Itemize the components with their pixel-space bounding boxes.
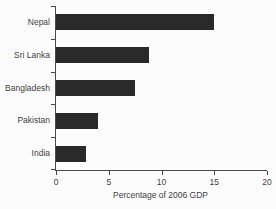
bar-sri-lanka xyxy=(56,47,149,63)
y-axis-tick xyxy=(51,169,55,170)
category-label-sri-lanka: Sri Lanka xyxy=(0,50,50,61)
bar-chart-figure: 05101520 Percentage of 2006 GDP NepalSri… xyxy=(0,0,276,209)
x-axis-tick-label: 20 xyxy=(257,177,276,187)
x-axis-tick xyxy=(162,171,163,175)
x-axis-tick-label: 15 xyxy=(204,177,224,187)
category-label-bangladesh: Bangladesh xyxy=(0,83,50,94)
plot-area: 05101520 xyxy=(55,6,267,171)
x-axis-tick xyxy=(56,171,57,175)
y-axis-tick xyxy=(51,104,55,105)
x-axis-tick xyxy=(109,171,110,175)
category-label-india: India xyxy=(0,148,50,159)
y-axis-tick xyxy=(51,39,55,40)
x-axis-title: Percentage of 2006 GDP xyxy=(55,190,266,200)
bar-nepal xyxy=(56,14,214,30)
bar-pakistan xyxy=(56,113,98,129)
category-label-nepal: Nepal xyxy=(0,17,50,28)
x-axis-tick-label: 10 xyxy=(152,177,172,187)
x-axis-tick xyxy=(214,171,215,175)
bar-bangladesh xyxy=(56,80,135,96)
y-axis-tick xyxy=(51,137,55,138)
y-axis-tick xyxy=(51,6,55,7)
x-axis-tick xyxy=(267,171,268,175)
x-axis-tick-label: 5 xyxy=(99,177,119,187)
y-axis-tick xyxy=(51,72,55,73)
x-axis-tick-label: 0 xyxy=(46,177,66,187)
bar-india xyxy=(56,146,86,162)
category-label-pakistan: Pakistan xyxy=(0,115,50,126)
